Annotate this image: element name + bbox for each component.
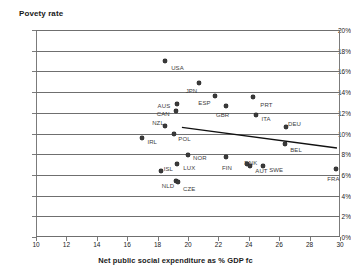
gridline — [36, 196, 340, 197]
data-point — [248, 164, 252, 168]
x-axis-tick-label: 12 — [63, 241, 70, 248]
x-axis-tick-mark — [188, 237, 189, 241]
x-axis-tick-mark — [97, 237, 98, 241]
data-point-label: NZL — [152, 120, 164, 126]
x-axis-tick-label: 18 — [154, 241, 161, 248]
scatter-chart: Povety rate 0%2%4%6%8%10%12%14%16%18%20%… — [0, 0, 351, 276]
data-point-label: POL — [178, 136, 190, 142]
data-point — [254, 113, 258, 117]
x-axis-tick-mark — [249, 237, 250, 241]
data-point — [175, 162, 179, 166]
x-axis-tick-label: 10 — [32, 241, 39, 248]
data-point — [334, 167, 338, 171]
data-point — [224, 155, 228, 159]
x-axis-title: Net public social expenditure as % GDP f… — [0, 256, 351, 265]
x-axis-tick-mark — [340, 237, 341, 241]
data-point-label: CAN — [157, 111, 170, 117]
gridline — [36, 30, 340, 31]
data-point-label: NLD — [162, 183, 174, 189]
gridline — [36, 71, 340, 72]
data-point-label: NOR — [193, 155, 207, 161]
data-point — [172, 132, 176, 136]
x-axis-tick-mark — [158, 237, 159, 241]
plot-area: USAJPNAUSCANESPGBRPRTITADEUNZLIRLPOLBELN… — [36, 30, 340, 237]
x-axis-tick-label: 26 — [276, 241, 283, 248]
data-point-label: CZE — [183, 186, 195, 192]
gridline — [36, 134, 340, 135]
data-point — [224, 104, 228, 108]
data-point-label: GBR — [216, 112, 229, 118]
x-axis-tick-label: 30 — [336, 241, 343, 248]
x-axis-tick-label: 24 — [245, 241, 252, 248]
gridline — [36, 175, 340, 176]
data-point — [251, 95, 255, 99]
data-point-label: AUS — [158, 103, 171, 109]
data-point — [197, 81, 201, 85]
data-point-label: BEL — [290, 147, 302, 153]
x-axis-tick-label: 22 — [215, 241, 222, 248]
data-point — [283, 142, 287, 146]
x-axis-tick-mark — [127, 237, 128, 241]
x-axis-tick-label: 20 — [184, 241, 191, 248]
data-point-label: DEU — [288, 121, 301, 127]
data-point — [261, 164, 265, 168]
x-axis-tick-mark — [66, 237, 67, 241]
data-point-label: JPN — [186, 88, 198, 94]
data-point-label: USA — [171, 65, 184, 71]
data-point — [140, 136, 144, 140]
chart-title: Povety rate — [19, 9, 63, 18]
data-point-label: PRT — [260, 102, 272, 108]
data-point — [186, 153, 190, 157]
x-axis-tick-mark — [310, 237, 311, 241]
data-point-label: IRL — [147, 139, 157, 145]
data-point — [159, 169, 163, 173]
data-point-label: FRA — [327, 176, 339, 182]
x-axis-tick-label: 16 — [124, 241, 131, 248]
data-point-label: FIN — [222, 165, 232, 171]
data-point — [213, 94, 217, 98]
x-axis-line — [36, 236, 340, 237]
data-point-label: AUT — [255, 168, 267, 174]
gridline — [36, 51, 340, 52]
x-axis-tick-mark — [279, 237, 280, 241]
cropped-top-text — [0, 0, 351, 7]
gridline — [36, 216, 340, 217]
gridline — [36, 113, 340, 114]
x-axis-tick-mark — [218, 237, 219, 241]
data-point-label: ITA — [261, 116, 270, 122]
data-point — [163, 59, 167, 63]
data-point — [175, 102, 179, 106]
data-point — [174, 109, 178, 113]
data-point-label: ISL — [164, 166, 173, 172]
x-axis-tick-mark — [36, 237, 37, 241]
data-point-label: ESP — [198, 100, 210, 106]
data-point-label: SWE — [269, 167, 283, 173]
data-point-label: LUX — [183, 165, 195, 171]
data-point — [176, 180, 180, 184]
x-axis-tick-label: 28 — [306, 241, 313, 248]
x-axis-tick-label: 14 — [93, 241, 100, 248]
